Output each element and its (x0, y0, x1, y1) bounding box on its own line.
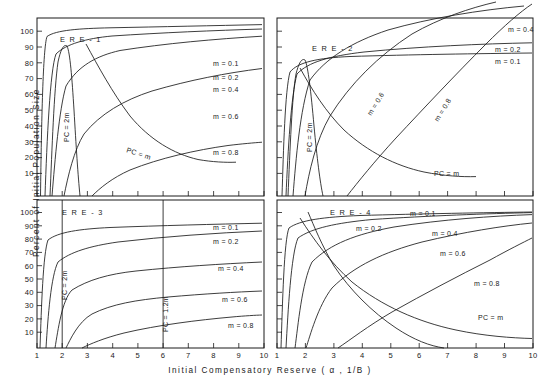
panel-ere3-title: E R E - 3 (62, 208, 104, 217)
x4-tick-1: 1 (275, 351, 280, 360)
x4-tick-6: 6 (417, 351, 422, 360)
x4-tick-5: 5 (388, 351, 393, 360)
x4-tick-2: 2 (303, 351, 308, 360)
panel-ere4-x-ticks (277, 343, 533, 348)
label-ere2-m08: m = 0.8 (433, 97, 453, 122)
y-tick-50: 50 (25, 106, 34, 115)
y-tick-40: 40 (25, 122, 34, 131)
label-ere1-m02: m = 0.2 (213, 74, 239, 81)
label-ere4-pcm: PC = m (478, 314, 503, 321)
y3-tick-70: 70 (25, 248, 34, 257)
label-ere3-m04: m = 0.4 (218, 265, 244, 272)
y-tick-10: 10 (25, 169, 34, 178)
curve-ere2-m06 (305, 2, 496, 196)
panel-ere1: 100 90 80 70 60 50 40 30 20 10 E R E - 1 (20, 18, 264, 196)
y-tick-70: 70 (25, 74, 34, 83)
x-tick-2: 2 (60, 351, 65, 360)
y3-tick-10: 10 (25, 328, 34, 337)
label-ere2-pcm: PC = m (434, 170, 459, 177)
x4-tick-3: 3 (332, 351, 337, 360)
y3-tick-80: 80 (25, 235, 34, 244)
label-ere2-m04: m = 0.4 (508, 26, 534, 33)
x4-tick-7: 7 (445, 351, 450, 360)
panel-ere4-y-ticks (277, 213, 282, 333)
x-tick-1: 1 (35, 351, 40, 360)
panel-ere3-x-ticks (37, 343, 264, 348)
label-ere4-m02: m = 0.2 (356, 225, 382, 232)
label-ere1-pcm: PC = m (126, 146, 152, 160)
y-tick-100: 100 (20, 27, 34, 36)
y3-tick-40: 40 (25, 288, 34, 297)
label-ere3-m06: m = 0.6 (222, 296, 248, 303)
label-ere4-m08: m = 0.8 (474, 280, 500, 287)
label-ere4-m04: m = 0.4 (432, 230, 458, 237)
x-tick-10: 10 (259, 351, 268, 360)
x-tick-4: 4 (110, 351, 115, 360)
label-ere1-m06: m = 0.6 (213, 113, 239, 120)
panel-ere2-x-ticks (277, 191, 533, 196)
label-ere2-m02: m = 0.2 (495, 46, 521, 53)
x-tick-5: 5 (136, 351, 141, 360)
label-ere1-m04: m = 0.4 (213, 86, 239, 93)
label-ere1-pc2m: PC = 2m (63, 112, 70, 142)
curve-ere3-m02 (46, 231, 262, 348)
panel-ere4-x-ticklabels: 1 2 3 4 5 6 7 8 9 10 (275, 351, 538, 360)
label-ere2-m01: m = 0.1 (495, 58, 521, 65)
y3-tick-100: 100 (20, 208, 34, 217)
x4-tick-10: 10 (528, 351, 537, 360)
y3-tick-90: 90 (25, 222, 34, 231)
y3-tick-20: 20 (25, 315, 34, 324)
label-ere4-m06: m = 0.6 (440, 250, 466, 257)
y-tick-30: 30 (25, 138, 34, 147)
panel-ere1-x-ticks (37, 191, 264, 196)
label-ere1-m08: m = 0.8 (213, 149, 239, 156)
label-ere3-m08: m = 0.8 (228, 322, 254, 329)
label-ere2-m06: m = 0.6 (366, 91, 386, 116)
panel-ere1-y-ticklabels: 100 90 80 70 60 50 40 30 20 10 (20, 27, 34, 178)
x-tick-8: 8 (211, 351, 216, 360)
x4-tick-8: 8 (474, 351, 479, 360)
label-ere3-m02: m = 0.2 (213, 238, 239, 245)
y-tick-60: 60 (25, 90, 34, 99)
x-tick-9: 9 (236, 351, 241, 360)
plot-svg: 100 90 80 70 60 50 40 30 20 10 E R E - 1 (0, 0, 540, 385)
panel-ere4: 1 2 3 4 5 6 7 8 9 10 E R E - 4 m = 0.1 m… (275, 200, 538, 360)
x4-tick-4: 4 (360, 351, 365, 360)
x-tick-7: 7 (186, 351, 191, 360)
panel-ere3-x-ticklabels: 1 2 3 4 5 6 7 8 9 10 (35, 351, 269, 360)
label-ere2-pc2m: PC = 2m (306, 122, 313, 152)
y3-tick-60: 60 (25, 262, 34, 271)
label-ere3-pc12m: PC = 1.2m (162, 296, 169, 332)
y3-tick-50: 50 (25, 275, 34, 284)
panel-ere1-title: E R E - 1 (60, 35, 102, 44)
y-tick-80: 80 (25, 59, 34, 68)
curve-ere3-m04 (55, 262, 262, 348)
curve-ere4-pc2m (308, 212, 444, 348)
panel-ere4-frame (277, 200, 533, 348)
y3-tick-30: 30 (25, 301, 34, 310)
y-tick-90: 90 (25, 43, 34, 52)
label-ere4-m01: m = 0.1 (410, 210, 436, 217)
label-ere1-m01: m = 0.1 (213, 60, 239, 67)
figure-root: Percent of Initial Population Size Initi… (0, 0, 540, 385)
panel-ere2: E R E - 2 m = 0.4 m = 0.2 m = 0.1 m = 0.… (277, 2, 534, 196)
curve-ere3-m08 (82, 315, 262, 348)
panel-ere3: 100 90 80 70 60 50 40 30 20 10 1 2 3 4 5… (20, 200, 269, 360)
y-tick-20: 20 (25, 153, 34, 162)
panel-ere3-y-ticklabels: 100 90 80 70 60 50 40 30 20 10 (20, 208, 34, 337)
panel-ere2-title: E R E - 2 (312, 44, 354, 53)
x4-tick-9: 9 (502, 351, 507, 360)
label-ere3-pc2m: PC = 2m (61, 270, 68, 300)
x-tick-6: 6 (161, 351, 166, 360)
x-tick-3: 3 (85, 351, 90, 360)
label-ere3-m01: m = 0.1 (213, 224, 239, 231)
panel-ere2-y-ticks (277, 31, 282, 173)
